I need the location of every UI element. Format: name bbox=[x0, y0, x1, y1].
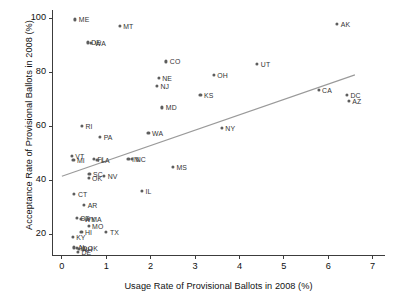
y-tick-label: 80 bbox=[36, 66, 46, 76]
point-label: NE bbox=[162, 74, 172, 81]
y-tick-label: 20 bbox=[36, 228, 46, 238]
point-label: NY bbox=[225, 124, 235, 131]
point-label: RI bbox=[85, 123, 92, 130]
point-label: MA bbox=[91, 216, 102, 223]
x-tick-label: 0 bbox=[52, 261, 72, 271]
x-tick-label: 1 bbox=[96, 261, 116, 271]
point-label: AR bbox=[88, 201, 98, 208]
point-label: KY bbox=[76, 234, 85, 241]
x-axis-title: Usage Rate of Provisional Ballots in 200… bbox=[52, 281, 385, 291]
point-label: TX bbox=[110, 228, 119, 235]
x-tick-label: 6 bbox=[318, 261, 338, 271]
point-label: MD bbox=[166, 104, 177, 111]
point-label: HI bbox=[85, 228, 92, 235]
point-label: WA bbox=[152, 130, 163, 137]
x-tick-label: 2 bbox=[141, 261, 161, 271]
point-label: AZ bbox=[352, 97, 361, 104]
point-label: WA bbox=[95, 39, 106, 46]
point-label: UT bbox=[261, 61, 270, 68]
plot-area: 20406080100 01234567 MEMTDEWAAKCOUTOHNEN… bbox=[52, 10, 385, 256]
x-tick-label: 3 bbox=[185, 261, 205, 271]
x-tick-label: 4 bbox=[229, 261, 249, 271]
point-label: OK bbox=[88, 244, 98, 251]
point-label: MI bbox=[77, 157, 85, 164]
point-label: CA bbox=[322, 86, 332, 93]
point-label: LA bbox=[101, 156, 110, 163]
point-label: KS bbox=[204, 92, 213, 99]
point-label: OK bbox=[92, 174, 102, 181]
x-tick-label: 5 bbox=[274, 261, 294, 271]
point-label: IL bbox=[145, 188, 151, 195]
point-label: MS bbox=[176, 163, 187, 170]
scatter-plot-figure: Acceptance Rate of Provisional Ballots i… bbox=[0, 0, 402, 300]
point-label: MO bbox=[92, 223, 103, 230]
point-label: NC bbox=[136, 156, 146, 163]
point-label: ME bbox=[79, 16, 90, 23]
y-tick-label: 100 bbox=[31, 12, 46, 22]
y-tick-label: 60 bbox=[36, 120, 46, 130]
point-label: PA bbox=[104, 134, 113, 141]
point-label: CO bbox=[170, 58, 181, 65]
point-label: CT bbox=[78, 190, 87, 197]
point-label: OH bbox=[217, 71, 228, 78]
y-axis-title: Acceptance Rate of Provisional Ballots i… bbox=[24, 0, 34, 250]
point-label: NJ bbox=[160, 82, 169, 89]
point-label: MT bbox=[123, 23, 133, 30]
x-tick-label: 7 bbox=[363, 261, 383, 271]
point-label: NV bbox=[108, 173, 118, 180]
point-label: AK bbox=[341, 20, 350, 27]
y-tick-label: 40 bbox=[36, 174, 46, 184]
